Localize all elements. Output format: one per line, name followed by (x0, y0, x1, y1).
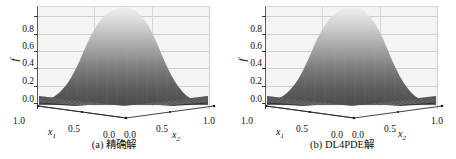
y-tick-label-0.0-a: 0.0 (8, 94, 34, 104)
caption-panel-a: (a) 精确解 (0, 139, 228, 151)
x2-tick-label-0.5-a: 0.5 (156, 124, 168, 134)
surface-mesh-b (265, 6, 438, 109)
y-tick-label-0.2-a: 0.2 (8, 76, 34, 86)
x2-tick-label-1.0-b: 1.0 (431, 116, 443, 126)
x2-tick-label-1.0-a: 1.0 (203, 116, 215, 126)
plot-area-b (265, 6, 438, 109)
y-tick-label-0.2-b: 0.2 (236, 76, 262, 86)
y-tick-label-0.6-a: 0.6 (8, 41, 34, 51)
x1-tick-label-1.0-b: 1.0 (241, 116, 253, 126)
figure-two-surface-plots: f 0.8 0.6 0.4 0.2 0.0 (0, 0, 456, 159)
surface-plot-panel-b: f 0.8 0.6 0.4 0.2 0.0 (228, 0, 456, 159)
floor-axes-a (37, 100, 217, 126)
x1-tick-label-1.0-a: 1.0 (13, 116, 25, 126)
x1-tick-label-0.5-b: 0.5 (296, 124, 308, 134)
y-tick-label-0.4-b: 0.4 (236, 58, 262, 68)
y-tick-label-0.0-b: 0.0 (236, 94, 262, 104)
x1-tick-label-0.5-a: 0.5 (68, 124, 80, 134)
y-tick-label-0.4-a: 0.4 (8, 58, 34, 68)
surface-plot-panel-a: f 0.8 0.6 0.4 0.2 0.0 (0, 0, 228, 159)
y-tick-label-0.8-a: 0.8 (8, 24, 34, 34)
floor-axes-b (265, 100, 445, 126)
plot-area-a (37, 6, 210, 109)
caption-panel-b: (b) DL4PDE解 (228, 139, 456, 151)
y-tick-label-0.8-b: 0.8 (236, 24, 262, 34)
x2-tick-label-0.5-b: 0.5 (384, 124, 396, 134)
surface-mesh-a (37, 6, 210, 109)
y-tick-label-0.6-b: 0.6 (236, 41, 262, 51)
